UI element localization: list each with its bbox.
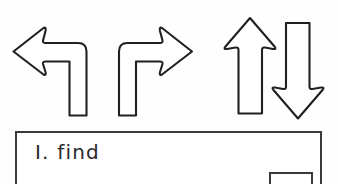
answer-box[interactable]	[269, 172, 313, 184]
question-item-text: I. find	[35, 142, 100, 162]
arrow-up-icon	[225, 18, 276, 114]
question-panel: I. find	[15, 131, 322, 184]
arrow-turn-left-icon	[14, 28, 87, 116]
arrow-down-icon	[273, 23, 324, 119]
arrow-turn-right-icon	[119, 28, 192, 116]
worksheet-page: I. find	[0, 0, 338, 184]
